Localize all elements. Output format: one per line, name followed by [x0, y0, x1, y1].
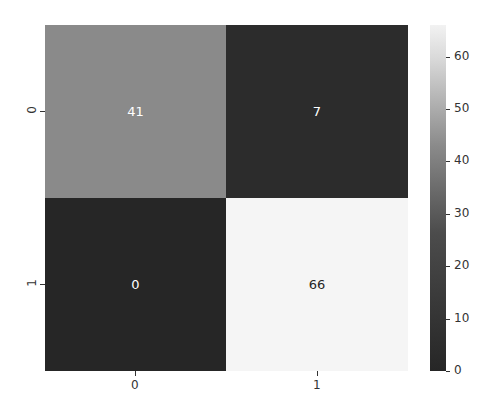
colorbar-label-20: 20 — [454, 258, 469, 272]
y-tick-1 — [40, 284, 45, 285]
colorbar — [430, 25, 446, 371]
x-tick-label-1: 1 — [313, 378, 321, 392]
colorbar-tick-10 — [446, 319, 450, 320]
colorbar-label-10: 10 — [454, 311, 469, 325]
cell-1-0: 0 — [45, 198, 226, 371]
cell-0-0: 41 — [45, 25, 226, 198]
heatmap: 41 7 0 66 — [45, 25, 408, 371]
colorbar-tick-50 — [446, 109, 450, 110]
cell-value: 7 — [313, 104, 321, 119]
cell-0-1: 7 — [226, 25, 408, 198]
colorbar-tick-40 — [446, 161, 450, 162]
colorbar-tick-0 — [446, 371, 450, 372]
cell-value: 66 — [309, 277, 326, 292]
x-tick-0 — [135, 371, 136, 376]
colorbar-tick-60 — [446, 57, 450, 58]
y-tick-label-0: 0 — [25, 106, 39, 114]
x-tick-1 — [317, 371, 318, 376]
colorbar-label-30: 30 — [454, 206, 469, 220]
colorbar-tick-30 — [446, 214, 450, 215]
cell-value: 0 — [131, 277, 139, 292]
colorbar-label-0: 0 — [454, 363, 462, 377]
y-tick-0 — [40, 111, 45, 112]
colorbar-label-60: 60 — [454, 49, 469, 63]
y-tick-label-1: 1 — [25, 279, 39, 287]
cell-1-1: 66 — [226, 198, 408, 371]
colorbar-label-40: 40 — [454, 153, 469, 167]
colorbar-tick-20 — [446, 266, 450, 267]
colorbar-label-50: 50 — [454, 101, 469, 115]
x-tick-label-0: 0 — [131, 378, 139, 392]
cell-value: 41 — [127, 104, 144, 119]
